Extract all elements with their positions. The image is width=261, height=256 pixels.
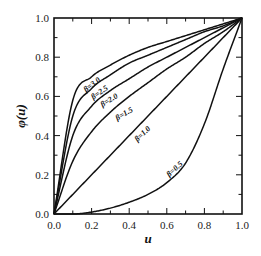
y-tick-label: 0.0 (35, 208, 49, 220)
x-tick-label: 0.2 (85, 219, 99, 231)
y-tick-label: 0.4 (35, 130, 49, 142)
x-axis-title: u (144, 231, 151, 246)
y-axis-title: φ(u) (13, 104, 28, 128)
y-tick-label: 1.0 (35, 12, 49, 24)
curve-labels: β=3.0β=2.5β=2.0β=1.5β=1.0β=0.5 (81, 75, 184, 179)
x-tick-label: 0.8 (198, 219, 212, 231)
x-tick-label: 0.4 (122, 219, 136, 231)
chart: β=3.0β=2.5β=2.0β=1.5β=1.0β=0.5 0.00.20.4… (0, 0, 261, 256)
y-tick-label: 0.8 (35, 51, 49, 63)
x-tick-label: 1.0 (235, 219, 249, 231)
y-tick-label: 0.6 (35, 90, 49, 102)
curve-label: β=1.0 (132, 124, 152, 144)
x-tick-label: 0.0 (47, 219, 61, 231)
x-tick-label: 0.6 (160, 219, 174, 231)
curve-label: β=1.5 (113, 105, 135, 123)
curves (54, 18, 242, 214)
y-tick-label: 0.2 (35, 169, 49, 181)
